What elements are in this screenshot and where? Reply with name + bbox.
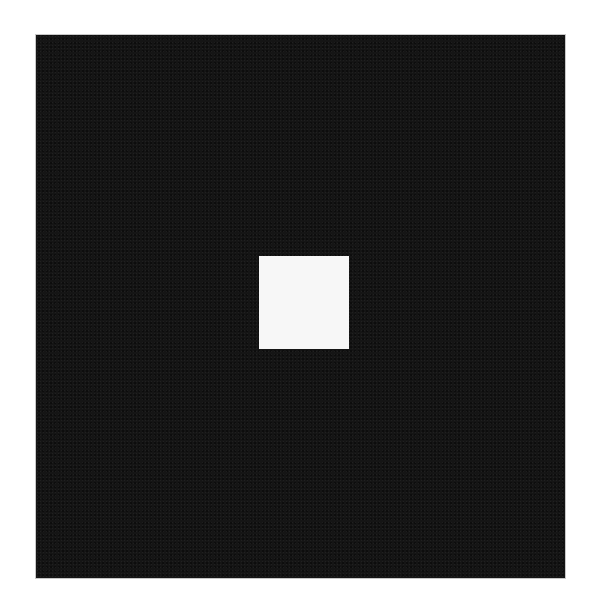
light-square [259, 256, 349, 349]
image-canvas [0, 0, 595, 610]
